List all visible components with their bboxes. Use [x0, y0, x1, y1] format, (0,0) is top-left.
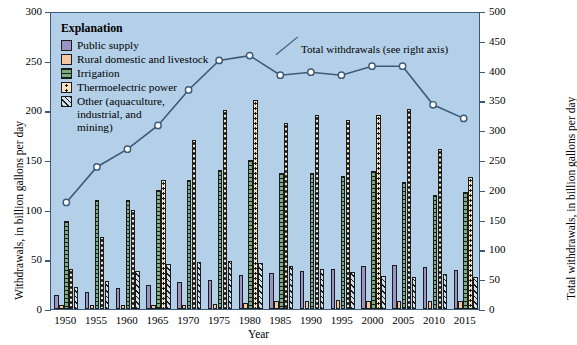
- annotation-leader-line: [276, 37, 298, 55]
- legend-swatch-thermoelectric-icon: [61, 82, 72, 93]
- total-withdrawals-marker: [308, 69, 314, 75]
- total-withdrawals-marker: [277, 72, 283, 78]
- legend-item-label: Other (aquaculture, industrial, and mini…: [77, 95, 165, 134]
- right-tick-label: 100: [489, 244, 506, 255]
- legend-item-irrigation[interactable]: Irrigation: [61, 67, 208, 80]
- right-tick-label: 250: [489, 155, 506, 166]
- total-withdrawals-marker: [216, 57, 222, 63]
- x-axis-title: Year: [248, 328, 269, 340]
- legend-item-label: Rural domestic and livestock: [77, 53, 208, 66]
- right-tick-label: 450: [489, 36, 506, 47]
- right-tick-label: 0: [489, 304, 495, 315]
- right-tick-label: 500: [489, 6, 506, 17]
- right-tick-label: 400: [489, 66, 506, 77]
- x-tick-label: 1950: [53, 315, 77, 326]
- total-withdrawals-marker: [63, 199, 69, 205]
- legend-swatch-rural-icon: [61, 54, 72, 65]
- left-tick-label: 150: [26, 155, 43, 166]
- x-tick-label: 2005: [391, 315, 415, 326]
- x-tick-label: 1980: [238, 315, 262, 326]
- total-withdrawals-marker: [460, 115, 466, 121]
- legend-item-other[interactable]: Other (aquaculture, industrial, and mini…: [61, 95, 208, 134]
- legend-item-label: Thermoelectric power: [77, 81, 177, 94]
- left-tick-label: 0: [37, 304, 43, 315]
- total-withdrawals-marker: [338, 72, 344, 78]
- x-tick-label: 2000: [361, 315, 385, 326]
- total-withdrawals-marker: [430, 102, 436, 108]
- x-tick-label: 1955: [84, 315, 108, 326]
- legend-title: Explanation: [61, 21, 208, 36]
- right-tick-mark: [479, 310, 485, 311]
- right-tick-label: 50: [489, 274, 500, 285]
- legend: Explanation Public supplyRural domestic …: [61, 21, 208, 135]
- legend-item-label: Public supply: [77, 39, 139, 52]
- right-axis-title: Total withdrawals, in billion gallons pe…: [565, 97, 577, 300]
- total-withdrawals-marker: [124, 146, 130, 152]
- total-withdrawals-marker: [246, 52, 252, 58]
- left-tick-mark: [45, 310, 51, 311]
- x-tick-label: 1960: [115, 315, 139, 326]
- right-tick-label: 150: [489, 215, 506, 226]
- legend-swatch-other-icon: [61, 96, 72, 107]
- right-tick-label: 300: [489, 125, 506, 136]
- left-tick-label: 300: [26, 6, 43, 17]
- left-tick-label: 100: [26, 205, 43, 216]
- right-tick-label: 200: [489, 185, 506, 196]
- x-tick-label: 1965: [146, 315, 170, 326]
- legend-swatch-public-icon: [61, 40, 72, 51]
- x-tick-label: 1970: [176, 315, 200, 326]
- total-withdrawals-marker: [399, 63, 405, 69]
- left-axis-title: Withdrawals, in billion gallons per day: [13, 121, 25, 300]
- x-tick-label: 1990: [299, 315, 323, 326]
- legend-item-label: Irrigation: [77, 67, 120, 80]
- right-tick-label: 350: [489, 95, 506, 106]
- left-tick-label: 50: [31, 254, 42, 265]
- x-tick-label: 1985: [268, 315, 292, 326]
- x-tick-label: 2010: [422, 315, 446, 326]
- total-withdrawals-marker: [94, 164, 100, 170]
- plot-area: Explanation Public supplyRural domestic …: [50, 12, 480, 310]
- x-tick-label: 1975: [207, 315, 231, 326]
- legend-item-rural[interactable]: Rural domestic and livestock: [61, 53, 208, 66]
- legend-item-public[interactable]: Public supply: [61, 39, 208, 52]
- left-tick-label: 250: [26, 56, 43, 67]
- line-annotation: Total withdrawals (see right axis): [301, 43, 448, 55]
- legend-item-thermoelectric[interactable]: Thermoelectric power: [61, 81, 208, 94]
- legend-swatch-irrigation-icon: [61, 68, 72, 79]
- total-withdrawals-marker: [369, 63, 375, 69]
- left-tick-label: 200: [26, 105, 43, 116]
- x-tick-label: 1995: [330, 315, 354, 326]
- x-tick-label: 2015: [453, 315, 477, 326]
